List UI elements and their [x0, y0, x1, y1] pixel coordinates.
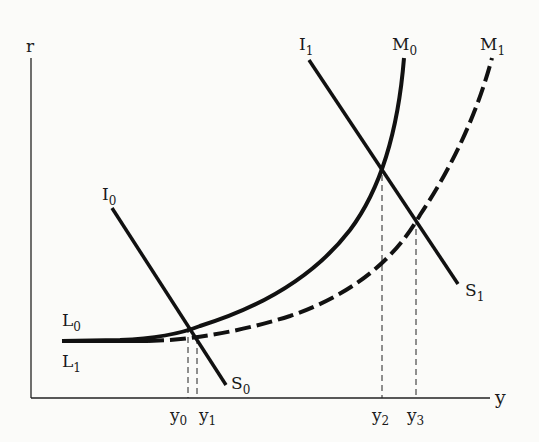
label-l0: L0: [62, 310, 81, 334]
label-m0: M0: [392, 34, 417, 58]
curve-lm1: [148, 58, 492, 341]
tick-y2: y2: [371, 405, 389, 428]
label-s1: S1: [465, 280, 484, 304]
guide-lines: [188, 165, 416, 398]
label-i0: I0: [102, 184, 116, 208]
is-lm-diagram: r y I0 I1 M0 M1 S0 S1 L0 L1 y0 y1 y2 y3: [0, 0, 539, 442]
tick-y0: y0: [169, 405, 187, 428]
label-l1: L1: [62, 351, 81, 375]
label-i1: I1: [299, 34, 313, 58]
y-axis-label: r: [26, 36, 35, 56]
tick-y1: y1: [198, 405, 216, 428]
label-s0: S0: [231, 373, 250, 397]
tick-y3: y3: [406, 405, 424, 428]
label-m1: M1: [480, 34, 505, 58]
curve-is0: [112, 208, 226, 385]
x-axis-label: y: [494, 386, 506, 408]
